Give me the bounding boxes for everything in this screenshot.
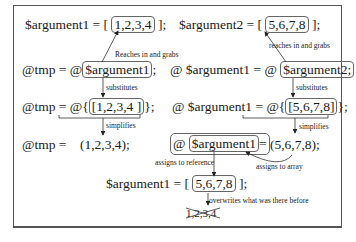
reaches-label-right: reaches in and grabs — [269, 41, 330, 50]
code-text: = — [259, 136, 267, 151]
code-text: @ — [173, 136, 185, 151]
right-line-4-group: @ $argument1= — [170, 133, 270, 155]
code-text: @tmp = @{ — [22, 99, 89, 114]
code-text: ]; — [312, 17, 320, 32]
right-line-1: $argument2 = [ 5,6,7,8 ]; — [179, 17, 320, 33]
array-literal-box: 1,2,3,4 — [111, 16, 154, 33]
reference-box: $argument1 — [82, 61, 152, 78]
reference-box: $argument1 — [189, 135, 259, 152]
code-text: @ $argument1 = @ — [170, 62, 277, 77]
assigns-array-label: assigns to array — [256, 162, 303, 171]
simplifies-label-left: simplifies — [106, 121, 136, 130]
substitutes-label-right: substitutes — [296, 83, 328, 92]
reaches-label-left: Reaches in and grabs — [115, 50, 179, 59]
code-text: $argument1 = [ — [25, 17, 108, 32]
reference-box: $argument2; — [280, 61, 354, 78]
array-literal-box: 5,6,7,8 — [192, 175, 235, 192]
array-ref-box: [5,6,7,8] — [285, 98, 337, 115]
code-text: }; — [337, 99, 347, 114]
left-line-4: @tmp = — [22, 137, 66, 153]
old-value-crossed: 1,2,3,4 — [186, 207, 216, 219]
diagram-frame — [13, 5, 342, 228]
substitutes-label-left: substitutes — [106, 83, 138, 92]
code-text: $argument1 = [ — [106, 176, 189, 191]
array-ref-box: [1,2,3,4 ] — [89, 98, 145, 115]
right-line-2: @ $argument1 = @ $argument2; — [170, 62, 354, 78]
code-text: @tmp = — [22, 137, 66, 152]
simplifies-label-right: simplifies — [299, 122, 329, 131]
code-text: }; — [144, 99, 154, 114]
code-text: ]; — [239, 176, 247, 191]
right-result: (5,6,7,8); — [270, 137, 320, 153]
left-line-3: @tmp = @{[1,2,3,4 ]}; — [22, 99, 154, 115]
code-text: @ $argument1 = @{ — [172, 99, 285, 114]
overwrites-label: overwrites what was there before — [209, 196, 309, 205]
left-line-2: @tmp = @$argument1; — [22, 62, 156, 78]
right-line-3: @ $argument1 = @{[5,6,7,8]}; — [172, 99, 348, 115]
code-text: ; — [152, 62, 156, 77]
code-text: @tmp = @ — [22, 62, 82, 77]
code-text: $argument2 = [ — [179, 17, 262, 32]
bottom-line: $argument1 = [ 5,6,7,8 ]; — [106, 176, 247, 192]
assigns-reference-label: assigns to reference — [155, 158, 214, 167]
left-line-1: $argument1 = [ 1,2,3,4 ]; — [25, 17, 166, 33]
code-text: ]; — [158, 17, 166, 32]
array-literal-box: 5,6,7,8 — [265, 16, 308, 33]
left-result: (1,2,3,4); — [80, 137, 130, 153]
